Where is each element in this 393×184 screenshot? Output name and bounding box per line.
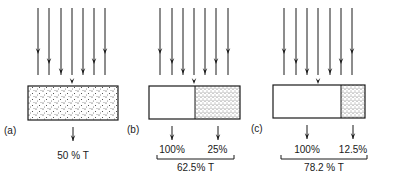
transmitted-light-arrow [216,126,221,140]
panel-a [28,8,118,141]
panel-label-b: (b) [127,124,139,136]
transmittance-value: 25% [207,144,227,156]
incident-light-arrow [103,8,108,75]
transmittance-value: 50 % T [57,150,89,162]
combined-transmittance: 78.2 % T [304,162,344,174]
incident-light-arrow [203,8,208,75]
incident-light-arrow [226,8,231,75]
transmitted-light-arrow [351,125,356,139]
incident-light-arrow [47,8,52,75]
incident-light-arrow [350,8,355,75]
transmittance-value: 100% [159,144,185,156]
combined-transmittance: 62.5% T [177,162,214,174]
incident-light-arrow [81,8,86,75]
incident-light-arrow [305,8,310,75]
panel-c [273,8,367,159]
panel-b [149,8,240,159]
transmitted-light-arrow [170,126,175,140]
incident-light-arrow [36,8,41,75]
panel-label-c: (c) [251,123,263,135]
incident-light-arrow [59,8,64,75]
absorbing-region [195,86,240,119]
incident-light-arrow [339,8,344,75]
transmitted-light-arrow [305,125,310,139]
incident-light-arrow [70,8,75,84]
transmittance-value: 12.5% [339,144,367,156]
incident-light-arrow [214,8,219,75]
incident-light-arrow [316,8,321,84]
incident-light-arrow [92,8,97,75]
incident-light-arrow [282,8,287,75]
absorbing-region [341,85,365,118]
incident-light-arrow [328,8,333,75]
incident-light-arrow [294,8,299,75]
incident-light-arrow [181,8,186,75]
incident-light-arrow [192,8,197,84]
incident-light-arrow [170,8,175,75]
transmittance-value: 100% [294,144,320,156]
panel-label-a: (a) [4,125,16,137]
incident-light-arrow [158,8,163,75]
absorbing-region [28,86,118,120]
transmitted-light-arrow [71,127,76,141]
